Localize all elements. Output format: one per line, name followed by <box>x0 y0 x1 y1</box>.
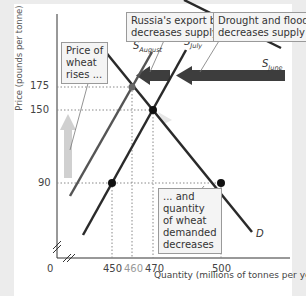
y-tick-175: 175 <box>30 80 49 91</box>
annotation-drought-floods: Drought and floods decreases supply <box>213 12 306 42</box>
label-s-august: SAugust <box>133 40 162 54</box>
y-axis-label: Price (pounds per tonne) <box>14 0 26 118</box>
point-450-90 <box>108 179 116 187</box>
x-axis-label: Quantity (millions of tonnes per year) <box>154 270 306 280</box>
x-tick-460: 460 <box>124 263 143 274</box>
y-tick-90: 90 <box>38 177 51 188</box>
annotation-quantity-decreases: ... and quantity of wheat demanded decre… <box>158 188 222 254</box>
label-d: D <box>256 228 264 239</box>
equilibrium-july <box>149 106 157 114</box>
equilibrium-june <box>217 179 225 187</box>
x-tick-450: 450 <box>103 263 122 274</box>
equilibrium-august <box>129 84 136 91</box>
label-s-june: SJune <box>262 58 283 72</box>
annotation-price-rises: Price of wheat rises ... <box>61 42 108 84</box>
origin-label: 0 <box>47 263 53 274</box>
price-rises-arrow <box>60 114 76 178</box>
y-tick-150: 150 <box>30 104 49 115</box>
